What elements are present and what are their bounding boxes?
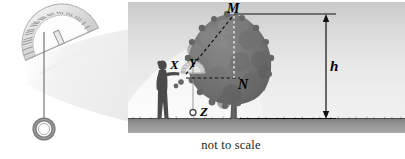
label-h: h (330, 59, 338, 74)
label-N: N (238, 78, 248, 92)
label-Y: Y (189, 56, 197, 69)
caption-not-to-scale: not to scale (136, 138, 326, 153)
plumb-ring-weight (35, 120, 54, 139)
ground-strip (128, 118, 405, 133)
handheld-plumb-bob (190, 110, 196, 116)
figure-root: M N h X Y Z not to scale (0, 0, 405, 159)
label-Z: Z (200, 105, 208, 118)
scene-panel: M N h X Y Z (128, 2, 405, 133)
label-M: M (227, 2, 239, 16)
label-X: X (170, 58, 179, 71)
